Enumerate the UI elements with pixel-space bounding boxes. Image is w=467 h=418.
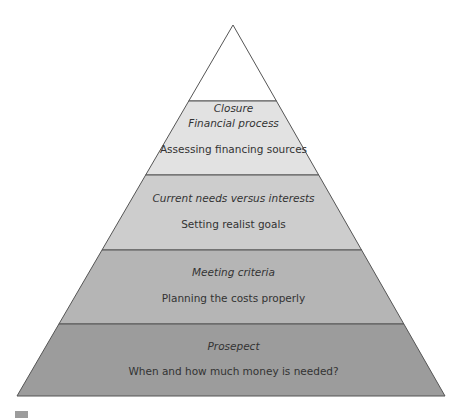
pyramid-layer-prospect [17,324,445,396]
layer-current-needs-title: Current needs versus interests [0,192,467,205]
legend-swatch [15,411,28,418]
layer-meeting-criteria-subtitle: Planning the costs properly [0,292,467,305]
layer-prospect-title: Prosepect [0,340,467,353]
layer-closure-title: Closure [0,102,467,115]
pyramid-layer-closure [189,25,277,101]
layer-financial-process-subtitle: Assessing financing sources [0,143,467,156]
layer-prospect-subtitle: When and how much money is needed? [0,365,467,378]
layer-financial-process-title: Financial process [0,117,467,130]
pyramid-diagram [0,0,467,418]
pyramid-layer-meeting-criteria [59,250,404,324]
layer-current-needs-subtitle: Setting realist goals [0,218,467,231]
layer-meeting-criteria-title: Meeting criteria [0,266,467,279]
pyramid-layer-current-needs [102,175,362,250]
